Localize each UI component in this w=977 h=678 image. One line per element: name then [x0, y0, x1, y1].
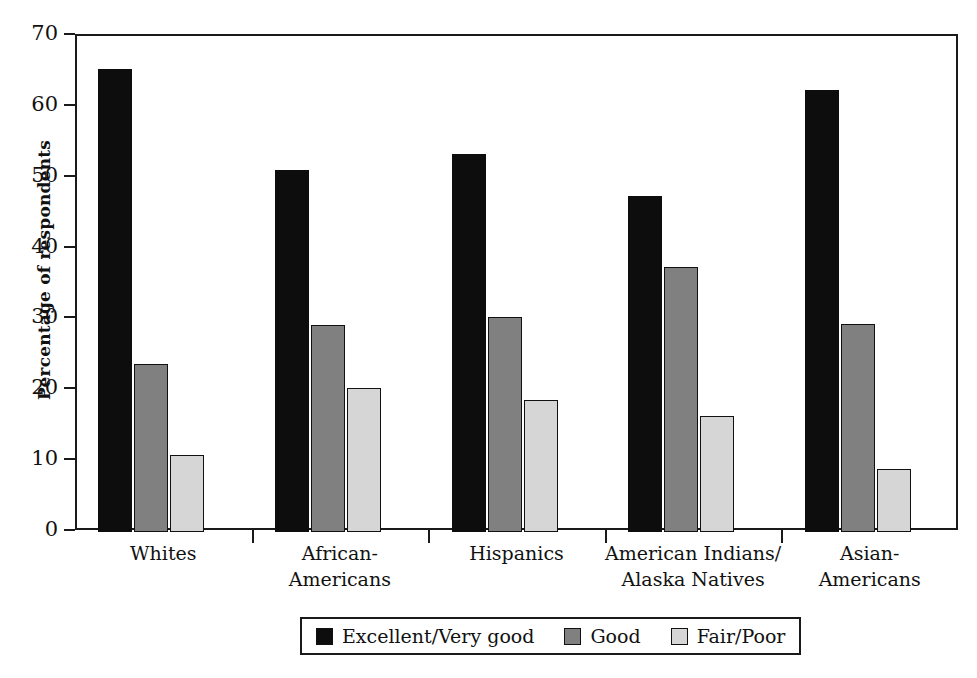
- bar-3-0: [628, 196, 662, 532]
- y-tick-mark: [64, 246, 75, 248]
- x-axis-label-line: Americans: [781, 566, 958, 592]
- y-tick-label: 0: [45, 517, 58, 541]
- x-axis-label-2: Hispanics: [428, 540, 605, 566]
- light-gray-swatch: [671, 628, 688, 645]
- y-tick-20: 20: [0, 388, 75, 389]
- legend-item-0[interactable]: Excellent/Very good: [316, 625, 534, 647]
- x-axis-label-3: American Indians/Alaska Natives: [605, 540, 782, 592]
- x-axis-label-line: Hispanics: [428, 540, 605, 566]
- y-tick-0: 0: [0, 530, 75, 531]
- bar-1-1: [311, 325, 345, 532]
- y-tick-60: 60: [0, 105, 75, 106]
- x-axis-label-line: Americans: [252, 566, 429, 592]
- y-tick-label: 40: [31, 234, 58, 258]
- bar-2-2: [524, 400, 558, 532]
- y-tick-mark: [64, 387, 75, 389]
- y-tick-70: 70: [0, 34, 75, 35]
- bar-4-0: [805, 90, 839, 532]
- y-tick-label: 70: [31, 21, 58, 45]
- y-tick-mark: [64, 316, 75, 318]
- legend-item-2[interactable]: Fair/Poor: [671, 625, 786, 647]
- bar-0-0: [98, 69, 132, 532]
- plot-area: [75, 34, 958, 530]
- y-tick-label: 60: [31, 92, 58, 116]
- bar-1-2: [347, 388, 381, 532]
- x-axis-label-line: Asian-: [781, 540, 958, 566]
- y-tick-50: 50: [0, 176, 75, 177]
- y-tick-mark: [64, 33, 75, 35]
- y-tick-30: 30: [0, 317, 75, 318]
- y-tick-label: 30: [31, 304, 58, 328]
- bar-0-1: [134, 364, 168, 532]
- x-axis-label-line: African-: [252, 540, 429, 566]
- bar-1-0: [275, 170, 309, 532]
- y-tick-label: 20: [31, 375, 58, 399]
- y-tick-label: 50: [31, 163, 58, 187]
- bar-4-2: [877, 469, 911, 532]
- y-tick-40: 40: [0, 247, 75, 248]
- bar-0-2: [170, 455, 204, 532]
- y-tick-mark: [64, 529, 75, 531]
- legend-label: Excellent/Very good: [342, 625, 534, 647]
- gray-swatch: [564, 628, 581, 645]
- bar-2-1: [488, 317, 522, 532]
- bar-3-2: [700, 416, 734, 532]
- x-axis-label-0: Whites: [75, 540, 252, 566]
- bar-4-1: [841, 324, 875, 532]
- legend-item-1[interactable]: Good: [564, 625, 640, 647]
- y-tick-mark: [64, 458, 75, 460]
- legend-label: Good: [590, 625, 640, 647]
- y-tick-label: 10: [31, 446, 58, 470]
- bar-2-0: [452, 154, 486, 532]
- y-tick-10: 10: [0, 459, 75, 460]
- bar-chart-figure: Percentage of respondents 01020304050607…: [0, 0, 977, 678]
- x-axis-label-4: Asian-Americans: [781, 540, 958, 592]
- y-tick-mark: [64, 104, 75, 106]
- x-axis-label-1: African-Americans: [252, 540, 429, 592]
- x-axis-label-line: Whites: [75, 540, 252, 566]
- chart-legend: Excellent/Very goodGoodFair/Poor: [300, 617, 801, 655]
- legend-label: Fair/Poor: [697, 625, 786, 647]
- bar-3-1: [664, 267, 698, 532]
- x-axis-label-line: Alaska Natives: [605, 566, 782, 592]
- y-tick-mark: [64, 175, 75, 177]
- black-swatch: [316, 628, 333, 645]
- plot-inner: [77, 36, 956, 528]
- x-axis-label-line: American Indians/: [605, 540, 782, 566]
